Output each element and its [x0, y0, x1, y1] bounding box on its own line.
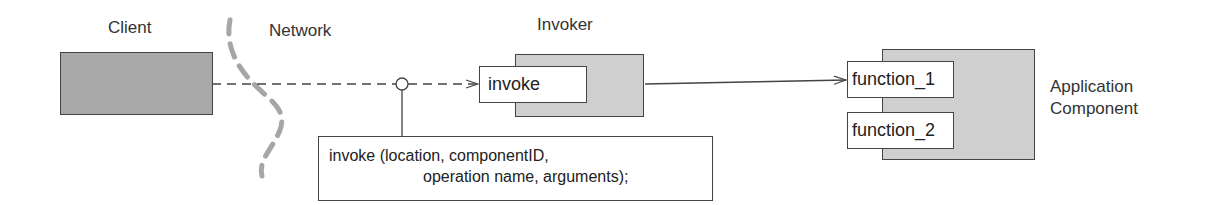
- network-boundary: [229, 20, 282, 176]
- invoke-operation-box: invoke: [479, 66, 587, 103]
- note-line-1: invoke (location, componentID,: [329, 145, 702, 166]
- client-label: Client: [108, 18, 151, 38]
- function-2-box: function_2: [847, 112, 954, 149]
- application-label-line-2: Component: [1050, 98, 1138, 120]
- network-label: Network: [269, 21, 331, 41]
- application-component-label: Application Component: [1050, 76, 1138, 120]
- interface-circle: [396, 78, 408, 90]
- client-box: [60, 52, 213, 115]
- invoker-label: Invoker: [537, 15, 593, 35]
- application-label-line-1: Application: [1050, 76, 1138, 98]
- function-1-box: function_1: [847, 61, 954, 98]
- note-line-2: operation name, arguments);: [329, 166, 702, 187]
- invoker-to-function-arrow: [645, 80, 846, 84]
- invoke-call-note: invoke (location, componentID, operation…: [318, 136, 713, 201]
